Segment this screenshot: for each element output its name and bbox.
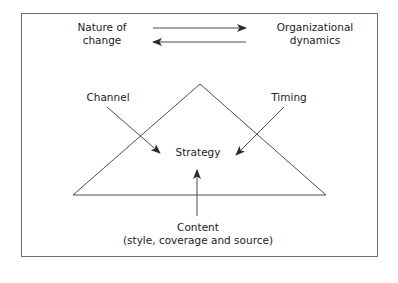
channel-arrow — [107, 107, 160, 153]
label-content-line2: (style, coverage and source) — [118, 234, 278, 247]
label-organizational-dynamics: Organizational dynamics — [265, 21, 365, 47]
label-timing: Timing — [264, 91, 314, 104]
label-content: Content (style, coverage and source) — [118, 221, 278, 247]
label-nature-of-change-line2: change — [72, 34, 132, 47]
label-organizational-dynamics-line1: Organizational — [265, 21, 365, 34]
label-channel: Channel — [78, 91, 138, 104]
label-nature-of-change-line1: Nature of — [72, 21, 132, 34]
label-organizational-dynamics-line2: dynamics — [265, 34, 365, 47]
label-nature-of-change: Nature of change — [72, 21, 132, 47]
label-strategy: Strategy — [167, 146, 229, 159]
label-content-line1: Content — [118, 221, 278, 234]
timing-arrow — [236, 107, 284, 155]
